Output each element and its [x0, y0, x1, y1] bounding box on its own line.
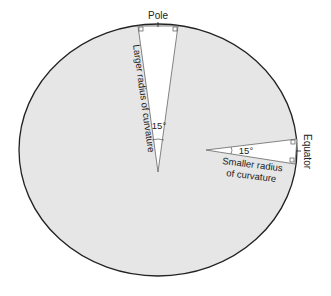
pole-angle-label: 15° [152, 120, 167, 131]
equator-label: Equator [302, 134, 313, 170]
equator-angle-label: 15° [239, 145, 254, 156]
pole-label: Pole [148, 10, 168, 21]
earth-curvature-diagram: Pole Larger radius of curvature 15° 15° … [0, 0, 331, 296]
